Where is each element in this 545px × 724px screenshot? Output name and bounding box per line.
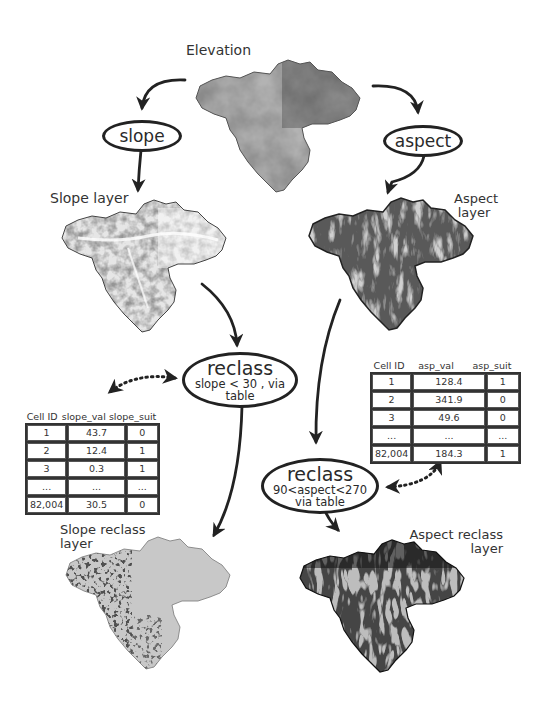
table-cell: 1 [487, 446, 519, 462]
table-row: ... ... ... [372, 428, 519, 444]
table-cell: 30.5 [68, 497, 124, 513]
aspect-reclass-oval: reclass 90<aspect<270 via table [261, 458, 379, 514]
table-cell: 341.9 [413, 392, 484, 408]
table-cell: 1 [27, 425, 66, 441]
slope-reclass-condition-line2: table [225, 390, 254, 402]
slope-reclass-layer-label: Slope reclass layer [60, 523, 146, 551]
slope-layer-label: Slope layer [50, 191, 128, 205]
aspect-reclass-label-line1: Aspect reclass [405, 528, 503, 542]
table-cell: 12.4 [68, 443, 124, 459]
arrow-slopelayer-to-reclass [202, 284, 237, 345]
table-cell: ... [372, 428, 411, 444]
table-cell: 2 [27, 443, 66, 459]
table-cell: 49.6 [413, 410, 484, 426]
aspect-operation-label: aspect [395, 133, 452, 150]
aspect-reclass-op-label: reclass [287, 465, 353, 484]
aspect-table-header-suit: asp_suit [464, 360, 520, 371]
aspect-table-header-cellid: Cell ID [370, 360, 408, 371]
elevation-label: Elevation [186, 43, 251, 57]
slope-table-header: Cell ID slope_val slope_suit [25, 411, 157, 422]
table-cell: ... [413, 428, 484, 444]
table-row: 82,004 184.3 1 [372, 446, 519, 462]
table-cell: 82,004 [372, 446, 411, 462]
slope-reclass-oval: reclass slope < 30 , via table [182, 352, 298, 408]
aspect-reclass-condition-line2: via table [295, 496, 345, 508]
slope-reclass-condition-line1: slope < 30 , via [195, 378, 285, 390]
slope-attribute-table: 1 43.7 0 2 12.4 1 3 0.3 1 ... ... ... 82… [25, 423, 160, 515]
slope-operation-label: slope [119, 128, 164, 145]
aspect-table-header-val: asp_val [408, 360, 464, 371]
arrow-elevation-to-aspect [373, 86, 418, 112]
table-cell: ... [68, 479, 124, 495]
arrow-elevation-to-slope [142, 80, 185, 108]
table-row: 2 341.9 0 [372, 392, 519, 408]
slope-table-header-cellid: Cell ID [25, 411, 59, 422]
table-row: 1 128.4 1 [372, 374, 519, 390]
slope-reclass-label-line1: Slope reclass [60, 523, 146, 537]
arrow-slope-to-layer [138, 150, 141, 190]
table-cell: 184.3 [413, 446, 484, 462]
table-cell: 3 [27, 461, 66, 477]
aspect-table-header: Cell ID asp_val asp_suit [370, 360, 520, 371]
aspect-layer-label: Aspect layer [454, 192, 494, 220]
dotted-arrow-aspect-table [388, 462, 440, 487]
slope-table-header-suit: slope_suit [108, 411, 157, 422]
arrow-aspect-to-layer [388, 156, 424, 192]
arrow-aspectlayer-to-reclass [316, 300, 340, 442]
table-row: 2 12.4 1 [27, 443, 158, 459]
slope-reclass-label-line2: layer [60, 537, 146, 551]
slope-table-header-val: slope_val [59, 411, 108, 422]
aspect-reclass-label-line2: layer [405, 542, 503, 556]
table-cell: 1 [127, 461, 158, 477]
table-cell: 0 [487, 392, 519, 408]
table-cell: 0 [127, 425, 158, 441]
dotted-arrow-slope-table [110, 377, 175, 392]
table-row: 3 49.6 0 [372, 410, 519, 426]
table-row: 1 43.7 0 [27, 425, 158, 441]
table-cell: 1 [127, 443, 158, 459]
table-cell: 1 [372, 374, 411, 390]
arrow-reclass-to-slope-reclass [214, 406, 242, 535]
slope-reclass-op-label: reclass [207, 359, 273, 378]
table-cell: 82,004 [27, 497, 66, 513]
aspect-layer-label-line2: layer [454, 206, 494, 220]
slope-operation-oval: slope [102, 120, 182, 152]
table-cell: 0 [127, 497, 158, 513]
table-cell: 2 [372, 392, 411, 408]
aspect-operation-oval: aspect [383, 125, 463, 157]
table-cell: ... [487, 428, 519, 444]
table-cell: ... [27, 479, 66, 495]
table-cell: 43.7 [68, 425, 124, 441]
table-cell: 0 [487, 410, 519, 426]
table-cell: 1 [487, 374, 519, 390]
aspect-attribute-table: 1 128.4 1 2 341.9 0 3 49.6 0 ... ... ...… [370, 372, 521, 464]
table-cell: 3 [372, 410, 411, 426]
table-cell: 0.3 [68, 461, 124, 477]
table-row: 3 0.3 1 [27, 461, 158, 477]
aspect-layer-label-line1: Aspect [454, 192, 494, 206]
table-row: 82,004 30.5 0 [27, 497, 158, 513]
table-row: ... ... ... [27, 479, 158, 495]
table-cell: 128.4 [413, 374, 484, 390]
aspect-reclass-layer-label: Aspect reclass layer [405, 528, 503, 556]
table-cell: ... [127, 479, 158, 495]
aspect-reclass-condition-line1: 90<aspect<270 [273, 484, 367, 496]
